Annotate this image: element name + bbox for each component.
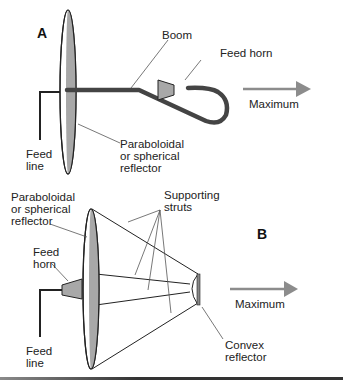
feed-horn-b [62, 279, 82, 299]
feed-line-a [40, 92, 62, 140]
panel-a-label: A [37, 27, 47, 39]
convex-reflector [192, 274, 200, 305]
leader-boom [131, 40, 168, 88]
feed-line-label-b: Feed line [26, 345, 52, 369]
boom-label: Boom [162, 29, 192, 41]
panel-b-label: B [257, 228, 267, 240]
feed-horn-label-b: Feed horn [33, 246, 59, 270]
leader-reflector-a [78, 124, 120, 143]
leader-convex-reflector [202, 307, 223, 339]
supporting-struts [92, 209, 198, 369]
maximum-label-a: Maximum [249, 98, 299, 110]
reflector-dish-b [83, 209, 99, 369]
reflector-label-a: Paraboloidal or spherical reflector [120, 138, 184, 174]
feed-line-b [40, 290, 62, 337]
supporting-struts-label: Supporting struts [164, 189, 220, 213]
convex-reflector-label: Convex reflector [225, 339, 267, 363]
boom [67, 88, 227, 123]
leader-feed-horn-a [185, 60, 201, 80]
reflector-label-b: Paraboloidal or spherical reflector [11, 191, 75, 227]
maximum-arrow-b [230, 281, 298, 297]
feed-line-label-a: Feed line [26, 148, 52, 172]
maximum-label-b: Maximum [235, 298, 285, 310]
maximum-arrow-a [243, 81, 311, 97]
feed-horn-a [158, 80, 174, 100]
feed-horn-label-a: Feed horn [220, 47, 272, 59]
